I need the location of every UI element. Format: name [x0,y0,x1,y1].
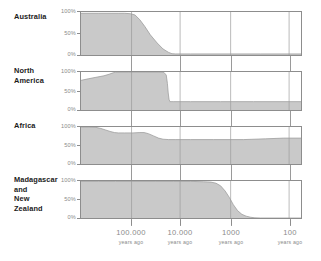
chart-figure: Australia North America Africa Madagasca… [0,0,321,261]
connector-gridline [231,165,232,180]
connector-gridline [231,56,232,71]
y-tick-label: 0% [54,160,76,166]
x-tick-value: 100 [260,228,320,237]
x-tick-mark [131,220,132,225]
y-tick-mark [77,110,80,111]
connector-gridline [180,111,181,126]
panel-label-line: Zealand [14,204,76,214]
x-tick-unit: years ago [260,239,320,245]
plot-frame [80,71,302,111]
connector-gridline [290,165,291,180]
y-tick-label: 100% [54,177,76,183]
y-tick-mark [77,199,80,200]
y-tick-mark [77,71,80,72]
connector-gridline [290,111,291,126]
area-series-africa [81,127,301,164]
connector-gridline [180,56,181,71]
y-tick-mark [77,180,80,181]
connector-gridline [131,165,132,180]
y-tick-label: 0% [54,214,76,220]
plot-frame [80,126,302,165]
area-series-madagascar-new-zealand [81,181,301,218]
y-tick-label: 50% [54,196,76,202]
y-tick-label: 100% [54,8,76,14]
y-tick-mark [77,33,80,34]
area-series-australia [81,12,301,55]
y-tick-mark [77,11,80,12]
panel-label-line: America [14,76,76,86]
y-tick-label: 100% [54,123,76,129]
panel-australia: 100% 50% 0% [80,11,302,56]
connector-gridline [131,56,132,71]
x-tick-label-100: 100 years ago [260,228,320,245]
plot-frame [80,11,302,56]
y-tick-mark [77,126,80,127]
panel-label-line: and [14,185,76,195]
x-tick-mark [290,220,291,225]
y-tick-mark [77,164,80,165]
x-tick-label-1000: 1000 years ago [201,228,261,245]
y-tick-label: 0% [54,51,76,57]
y-tick-mark [77,218,80,219]
connector-gridline [131,111,132,126]
y-tick-label: 50% [54,142,76,148]
panel-africa: 100% 50% 0% [80,126,302,165]
connector-gridline [290,56,291,71]
x-tick-value: 1000 [201,228,261,237]
x-tick-mark [180,220,181,225]
y-tick-mark [77,55,80,56]
y-tick-label: 100% [54,68,76,74]
connector-gridline [180,165,181,180]
y-tick-mark [77,91,80,92]
y-tick-label: 0% [54,106,76,112]
panel-madagascar-new-zealand: 100% 50% 0% [80,180,302,219]
x-tick-unit: years ago [201,239,261,245]
y-tick-label: 50% [54,88,76,94]
x-tick-mark [231,220,232,225]
panel-north-america: 100% 50% 0% [80,71,302,111]
plot-frame [80,180,302,219]
y-tick-mark [77,145,80,146]
area-series-north-america [81,72,301,110]
connector-gridline [231,111,232,126]
y-tick-label: 50% [54,30,76,36]
